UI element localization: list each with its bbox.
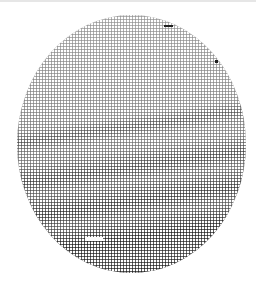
speck-mark: [164, 25, 173, 27]
speck-mark: [215, 60, 218, 63]
top-edge-line: [0, 0, 256, 2]
halftone-dot-screen: [17, 15, 246, 273]
halftone-disc: [17, 15, 246, 273]
white-gap: [85, 237, 103, 241]
